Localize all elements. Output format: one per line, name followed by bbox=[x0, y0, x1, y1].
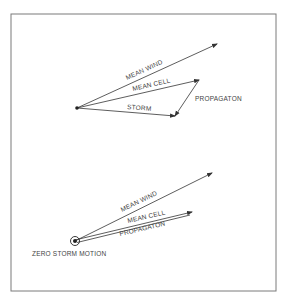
zero-storm-motion-inner-dot bbox=[73, 239, 77, 243]
storm-motion-diagram: MEAN WIND MEAN CELL STORM PROPAGATON MEA… bbox=[0, 0, 290, 303]
propagation-label: PROPAGATON bbox=[119, 220, 166, 237]
top-vector-diagram: MEAN WIND MEAN CELL STORM PROPAGATON bbox=[75, 44, 242, 116]
origin-dot bbox=[75, 106, 79, 110]
bottom-vector-diagram: MEAN WIND MEAN CELL PROPAGATON ZERO STOR… bbox=[32, 173, 212, 257]
mean-cell-label: MEAN CELL bbox=[132, 76, 171, 92]
zero-storm-motion-label: ZERO STORM MOTION bbox=[32, 250, 107, 257]
propagation-label: PROPAGATON bbox=[195, 95, 242, 102]
storm-label: STORM bbox=[127, 103, 152, 112]
